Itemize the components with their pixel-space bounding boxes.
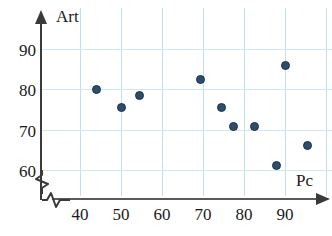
data-point [250,122,259,131]
x-tick-label-70: 70 [183,206,223,223]
data-point [196,75,205,84]
data-point [117,103,126,112]
gridline-horizontal-60 [40,170,332,171]
gridline-horizontal-80 [40,89,332,90]
gridline-horizontal-70 [40,130,332,131]
gridline-vertical-70 [203,8,204,196]
plot-area: 90 80 70 60 40 50 60 70 80 90 Art Pc [0,0,332,236]
gridline-horizontal-90 [40,49,332,50]
y-tick-label-60: 60 [4,163,36,180]
data-point [92,85,101,94]
y-tick-label-70: 70 [4,123,36,140]
y-axis-title: Art [56,8,79,25]
y-tick-label-group: 90 80 70 60 [0,0,36,236]
data-point [217,103,226,112]
x-axis-title: Pc [296,172,313,189]
x-tick-label-40: 40 [60,206,100,223]
x-tick-label-80: 80 [224,206,264,223]
data-point [281,61,290,70]
gridline-vertical-80 [244,8,245,196]
x-tick-label-60: 60 [142,206,182,223]
scatter-plot-figure: 90 80 70 60 40 50 60 70 80 90 Art Pc [0,0,332,236]
y-axis-arrow-icon [35,10,47,24]
data-point [135,91,144,100]
gridline-vertical-edge [326,8,327,196]
x-tick-label-50: 50 [101,206,141,223]
gridline-vertical-90 [285,8,286,196]
data-point [303,141,312,150]
x-tick-label-90: 90 [265,206,305,223]
x-axis-arrow-icon [316,193,330,205]
x-axis-line [52,198,318,200]
y-axis-line [40,22,42,172]
gridline-vertical-40 [80,8,81,196]
y-tick-label-90: 90 [4,42,36,59]
gridline-vertical-60 [162,8,163,196]
y-tick-label-80: 80 [4,82,36,99]
